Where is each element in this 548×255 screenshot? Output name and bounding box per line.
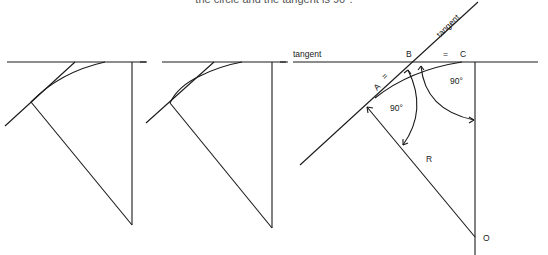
label-equal-ab: = [379,71,390,82]
figure-3: tangent tangent B = C A = 90° 90° R O [280,2,538,255]
arc [170,62,242,103]
radius-line [31,102,132,225]
tangent-diagram: tangent tangent B = C A = 90° 90° R O [0,0,548,255]
arc [375,62,462,98]
label-equal-bc: = [443,49,448,59]
figure-2 [140,62,288,228]
angle-arc-right [421,66,474,120]
secant-line [146,62,214,123]
label-point-c: C [460,49,466,59]
label-point-o: O [483,233,490,243]
label-radius: R [426,154,432,164]
radius-line [367,107,475,237]
label-angle-left: 90° [390,103,403,113]
label-point-b: B [406,49,412,59]
radius-line [170,103,272,228]
label-angle-right: 90° [450,76,463,86]
figure-1 [5,62,147,225]
label-tangent-slanted: tangent [434,12,462,40]
arrow-head-icon [404,70,411,74]
angle-arc-left [403,70,417,145]
label-tangent-horizontal: tangent [293,49,322,59]
